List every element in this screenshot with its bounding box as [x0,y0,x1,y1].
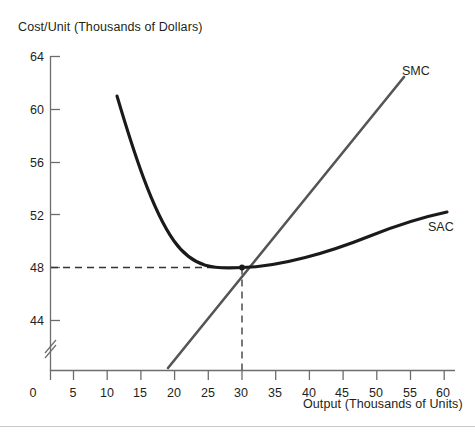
intersection-point-marker [239,265,245,271]
y-axis-ticks [50,57,60,321]
smc-line [168,77,404,368]
x-axis-ticks [51,370,445,380]
cost-curve-chart: Cost/Unit (Thousands of Dollars) Output … [0,0,475,440]
chart-plot-area [0,0,475,440]
bottom-divider [0,426,475,427]
sac-curve [117,96,447,268]
